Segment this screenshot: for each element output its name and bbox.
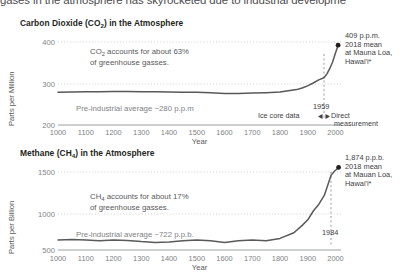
chart-co2-xtick-2000: 2000 (327, 128, 343, 137)
chart-ch4-endpoint-dot (336, 165, 341, 170)
chart-ch4-xtick-1800: 1800 (272, 254, 288, 263)
chart-ch4-callout: 1,874 p.p.b. 2018 mean at Mauan Loa, Haw… (345, 154, 392, 188)
chart-co2-note-tail: accounts for about 63% (105, 47, 189, 56)
chart-co2-note-subscript: 2 (102, 51, 105, 57)
chart-co2-note-line2: of greenhouse gasses. (90, 58, 169, 67)
chart-ch4-preindustrial-label: Pre-industrial average ~722 p.p.b. (76, 230, 194, 239)
chart-ch4-divider-year-label: 1984 (322, 228, 338, 237)
chart-co2-xtick-1800: 1800 (272, 128, 288, 137)
chart-ch4-note-line2: of greenhouse gasses. (90, 203, 169, 212)
chart-ch4-xtick-1100: 1100 (78, 254, 94, 263)
chart-ch4-xtick-1600: 1600 (216, 254, 232, 263)
chart-ch4-title-subscript: 4 (72, 152, 76, 159)
infographic-page: gases in the atmosphere has skyrocketed … (0, 0, 413, 280)
chart-co2-preindustrial-label: Pre-industrial average ~280 p.p.m (76, 104, 194, 113)
chart-co2-divider-year-label: 1959 (313, 102, 329, 111)
chart-ch4-xtick-2000: 2000 (327, 254, 343, 263)
chart-ch4-xtick-1200: 1200 (105, 254, 121, 263)
chart-co2-note-line1: CO2 accounts for about 63% (90, 47, 189, 56)
chart-ch4-note: CH4 accounts for about 17% of greenhouse… (90, 192, 189, 212)
chart-co2-xtick-1000: 1000 (50, 128, 66, 137)
chart-co2-xtick-1600: 1600 (216, 128, 232, 137)
chart-co2-note-lead: CO (90, 47, 102, 56)
chart-co2-x-axis-title: Year (58, 137, 341, 146)
chart-ch4-note-subscript: 4 (101, 196, 104, 202)
chart-ch4: Methane (CH4) in the Atmosphere Parts pe… (0, 148, 413, 274)
chart-co2-title-tail: ) in the Atmosphere (104, 18, 183, 28)
chart-ch4-xtick-1300: 1300 (133, 254, 149, 263)
chart-co2-xtick-1900: 1900 (300, 128, 316, 137)
chart-ch4-xtick-1700: 1700 (244, 254, 260, 263)
chart-co2-title-subscript: 2 (100, 22, 104, 29)
chart-co2-title-lead: Carbon Dioxide (CO (20, 18, 100, 28)
chart-ch4-ytick-1000: 1000 (38, 210, 55, 219)
chart-ch4-xtick-1000: 1000 (50, 254, 66, 263)
chart-ch4-note-lead: CH (90, 192, 101, 201)
chart-ch4-x-axis-title: Year (58, 263, 341, 272)
chart-co2-xtick-1300: 1300 (133, 128, 149, 137)
chart-ch4-note-line1: CH4 accounts for about 17% (90, 192, 189, 201)
chart-co2: Carbon Dioxide (CO2) in the Atmosphere P… (0, 18, 413, 140)
chart-co2-note: CO2 accounts for about 63% of greenhouse… (90, 47, 189, 67)
chart-co2-xtick-1400: 1400 (161, 128, 177, 137)
chart-co2-ytick-300: 300 (42, 80, 55, 89)
chart-ch4-xtick-1900: 1900 (300, 254, 316, 263)
chart-ch4-callout-line4: Hawai'i* (345, 179, 371, 188)
chart-ch4-ytick-1500: 1500 (38, 168, 55, 177)
chart-ch4-title: Methane (CH4) in the Atmosphere (20, 148, 155, 158)
chart-ch4-xtick-1400: 1400 (161, 254, 177, 263)
chart-co2-left-source-label: Ice core data (258, 112, 300, 120)
chart-co2-xtick-1500: 1500 (189, 128, 205, 137)
chart-co2-callout: 409 p.p.m. 2018 mean at Mauna Loa, Hawai… (345, 32, 392, 66)
chart-co2-ytick-400: 400 (42, 38, 55, 47)
chart-co2-xtick-1200: 1200 (105, 128, 121, 137)
chart-ch4-title-lead: Methane (CH (20, 148, 72, 158)
chart-ch4-title-tail: ) in the Atmosphere (75, 148, 154, 158)
chart-co2-xtick-1700: 1700 (244, 128, 260, 137)
chart-ch4-xtick-1500: 1500 (189, 254, 205, 263)
chart-co2-callout-line4: Hawai'i* (345, 57, 371, 66)
chart-co2-title: Carbon Dioxide (CO2) in the Atmosphere (20, 18, 183, 28)
chart-ch4-note-tail: accounts for about 17% (105, 192, 189, 201)
intro-text: gases in the atmosphere has skyrocketed … (0, 0, 413, 6)
chart-co2-endpoint-dot (336, 43, 341, 48)
chart-co2-xtick-1100: 1100 (78, 128, 94, 137)
